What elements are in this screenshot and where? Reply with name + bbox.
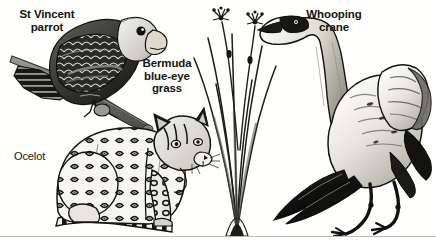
plate-canvas: St Vincent parrot Bermuda blue-eye grass… — [0, 0, 436, 236]
label-st-vincent-parrot: St Vincent parrot — [6, 8, 88, 33]
label-ocelot: Ocelot — [14, 150, 76, 163]
label-bermuda-blue-eye-grass: Bermuda blue-eye grass — [130, 57, 204, 95]
crane-wing-coverts — [378, 65, 431, 131]
figure-whooping-crane — [258, 2, 436, 236]
parrot-head — [118, 17, 168, 61]
bottom-margin-strip — [0, 237, 436, 247]
grass-blade-shading — [214, 112, 256, 228]
grass-flower-left — [212, 6, 230, 20]
label-whooping-crane: Whooping crane — [296, 8, 372, 33]
figure-ocelot — [52, 108, 220, 236]
grass-stem-nodes — [226, 50, 252, 64]
illustration-plate: St Vincent parrot Bermuda blue-eye grass… — [0, 0, 436, 247]
grass-flower-stalks — [222, 22, 255, 150]
